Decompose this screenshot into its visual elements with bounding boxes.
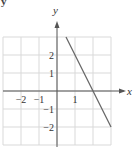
y-tick-label: −1 bbox=[43, 104, 54, 115]
y-axis-label: y bbox=[52, 4, 58, 16]
y-axis-arrow-icon bbox=[55, 21, 60, 28]
x-tick-label: −2 bbox=[16, 94, 27, 105]
line-chart: −2−1121−1−2 x y bbox=[0, 0, 134, 149]
x-axis-arrow-icon bbox=[119, 89, 126, 94]
x-axis-label: x bbox=[126, 85, 132, 97]
x-tick-label: 1 bbox=[73, 94, 78, 105]
y-tick-label: −2 bbox=[43, 122, 54, 133]
data-series bbox=[66, 37, 111, 127]
y-tick-label: 2 bbox=[49, 50, 54, 61]
series-line bbox=[66, 37, 111, 127]
y-tick-label: 1 bbox=[49, 68, 54, 79]
